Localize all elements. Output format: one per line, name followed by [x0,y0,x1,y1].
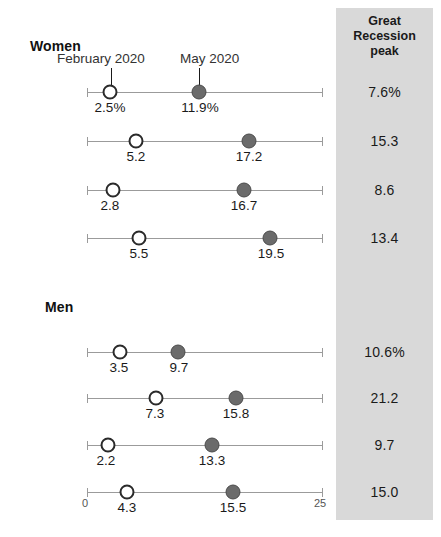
axis-tick-max [322,348,323,357]
table-row: Hispanic 5.5 19.5 [0,238,336,239]
table-row: Asian 2.8 16.7 [0,190,336,191]
axis-tick-max [322,137,323,146]
axis-tick-min [87,441,88,450]
value-feb-2020: 7.3 [146,406,165,421]
callout-may-2020: May 2020 [180,51,239,66]
axis-tick-max [322,488,323,497]
marker-feb-2020 [103,85,118,100]
group-title-men: Men [45,299,73,315]
marker-feb-2020 [113,345,128,360]
value-may-2020: 17.2 [236,149,262,164]
value-feb-2020: 4.3 [118,500,137,515]
axis-tick-min [87,488,88,497]
peak-value-men-black: 21.2 [336,390,433,406]
axis-label-min: 0 [82,497,88,509]
axis-tick-min [87,394,88,403]
panel-header-line-1: Great [336,14,433,29]
value-may-2020: 19.5 [258,246,284,261]
peak-value-men-hispanic: 15.0 [336,484,433,500]
axis-tick-max [322,441,323,450]
marker-feb-2020 [129,134,144,149]
axis-label-max: 25 [314,497,326,509]
peak-value-men-asian: 9.7 [336,437,433,453]
marker-feb-2020 [120,485,135,500]
value-feb-2020: 5.2 [127,149,146,164]
table-row: White 2.5% 11.9% [0,92,336,93]
marker-feb-2020 [101,438,116,453]
marker-may-2020 [263,231,278,246]
great-recession-header: Great Recession peak [336,14,433,59]
axis-tick-min [87,348,88,357]
table-row: Hispanic 4.3 15.5 [0,492,336,493]
marker-may-2020 [192,85,207,100]
value-feb-2020: 2.2 [97,453,116,468]
marker-may-2020 [205,438,220,453]
marker-may-2020 [237,183,252,198]
peak-value-women-hispanic: 13.4 [336,230,433,246]
axis-tick-min [87,234,88,243]
axis-tick-max [322,88,323,97]
value-may-2020: 11.9% [181,100,218,115]
marker-may-2020 [171,345,186,360]
panel-header-line-2: Recession [336,29,433,44]
value-feb-2020: 2.5% [95,100,126,115]
marker-may-2020 [229,391,244,406]
peak-value-men-white: 10.6% [336,344,433,360]
row-axis [87,141,322,142]
callout-february-2020: February 2020 [57,51,145,66]
table-row: Black 5.2 17.2 [0,141,336,142]
table-row: Black 7.3 15.8 [0,398,336,399]
value-feb-2020: 5.5 [130,246,149,261]
peak-value-women-white: 7.6% [336,84,433,100]
value-may-2020: 16.7 [231,198,257,213]
value-may-2020: 15.5 [220,500,246,515]
dumbbell-chart: Great Recession peak Women Men February … [0,0,441,537]
value-may-2020: 13.3 [199,453,225,468]
panel-header-line-3: peak [336,44,433,59]
axis-tick-min [87,88,88,97]
row-axis [87,190,322,191]
axis-tick-max [322,186,323,195]
row-axis [87,238,322,239]
value-feb-2020: 2.8 [101,198,120,213]
marker-feb-2020 [132,231,147,246]
peak-value-women-asian: 8.6 [336,182,433,198]
axis-tick-min [87,137,88,146]
table-row: Asian 2.2 13.3 [0,445,336,446]
table-row: White 3.5 9.7 [0,352,336,353]
marker-may-2020 [242,134,257,149]
value-may-2020: 15.8 [223,406,249,421]
value-feb-2020: 3.5 [110,360,129,375]
marker-feb-2020 [106,183,121,198]
row-axis [87,398,322,399]
axis-tick-max [322,234,323,243]
marker-feb-2020 [149,391,164,406]
value-may-2020: 9.7 [170,360,189,375]
axis-tick-min [87,186,88,195]
peak-value-women-black: 15.3 [336,133,433,149]
axis-tick-max [322,394,323,403]
marker-may-2020 [226,485,241,500]
